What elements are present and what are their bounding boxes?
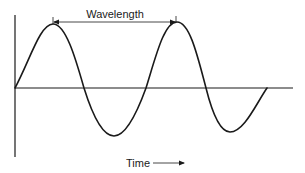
time-label: Time [126, 157, 150, 169]
sine-wave [15, 22, 267, 136]
wavelength-label: Wavelength [86, 8, 144, 20]
wave-diagram-svg: Wavelength Time [0, 0, 305, 173]
wave-diagram: Wavelength Time [0, 0, 305, 173]
